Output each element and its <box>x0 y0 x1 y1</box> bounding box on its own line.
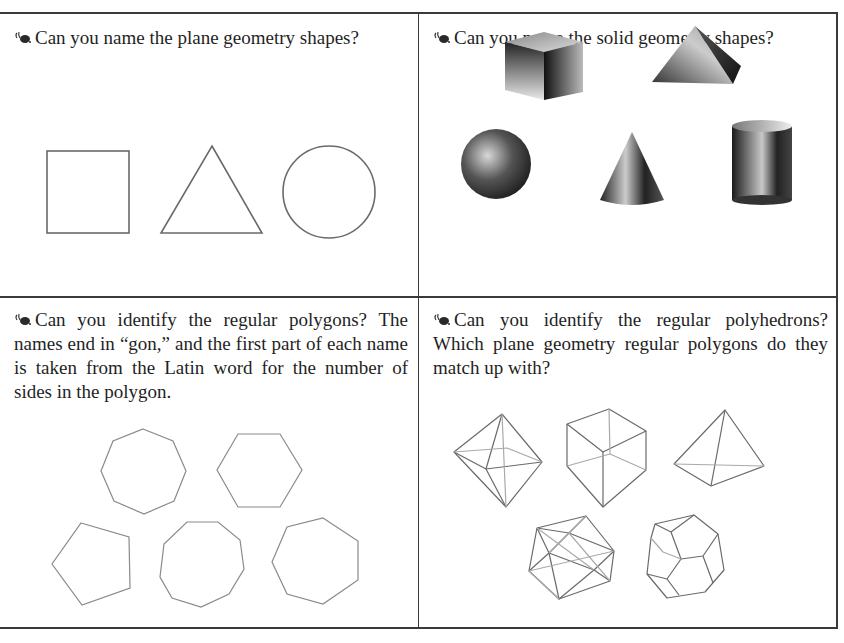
sphere-solid <box>461 129 531 199</box>
cylinder-solid <box>732 120 792 205</box>
panel-regular-polygons: Can you identify the regular polygons? T… <box>0 298 418 629</box>
nonagon-shape <box>160 522 244 607</box>
cone-solid <box>600 132 664 205</box>
square-shape <box>47 151 129 233</box>
pyramid-solid <box>652 26 741 84</box>
panel-regular-polyhedrons: Can you identify the regular polyhedrons… <box>419 298 838 629</box>
pentagon-shape <box>52 523 130 605</box>
panel-solid-shapes: Can you name the solid geometry shapes? <box>419 14 838 296</box>
dodecahedron-wireframe <box>647 515 724 598</box>
octahedron-wireframe <box>454 414 542 507</box>
panel-plane-shapes: Can you name the plane geometry shapes? <box>0 14 418 296</box>
solid-shapes-figure <box>419 14 838 296</box>
regular-polyhedrons-figure <box>419 298 838 629</box>
heptagon-shape <box>272 518 358 604</box>
hexagon-shape <box>217 434 302 507</box>
cube-solid <box>505 32 583 100</box>
plane-shapes-figure <box>0 14 418 296</box>
circle-shape <box>283 146 375 238</box>
triangle-shape <box>161 146 262 233</box>
regular-polygons-figure <box>0 298 418 629</box>
icosahedron-wireframe <box>529 516 614 599</box>
tetrahedron-wireframe <box>674 410 764 486</box>
octagon-shape <box>101 429 186 514</box>
cube-wireframe <box>567 409 646 507</box>
